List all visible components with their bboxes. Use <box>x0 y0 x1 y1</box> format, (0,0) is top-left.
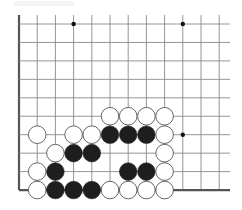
star-point-icon <box>71 22 75 26</box>
white-stone[interactable] <box>138 107 156 125</box>
black-stone[interactable] <box>65 181 83 199</box>
white-stone[interactable] <box>101 181 119 199</box>
white-stone[interactable] <box>156 181 174 199</box>
black-stone[interactable] <box>138 163 156 181</box>
black-stone[interactable] <box>138 126 156 144</box>
white-stone[interactable] <box>119 107 137 125</box>
white-stone[interactable] <box>28 163 46 181</box>
white-stone[interactable] <box>156 144 174 162</box>
star-point-icon <box>181 22 185 26</box>
black-stone[interactable] <box>119 126 137 144</box>
go-board[interactable] <box>0 0 242 210</box>
white-stone[interactable] <box>101 107 119 125</box>
white-stone[interactable] <box>156 107 174 125</box>
white-stone[interactable] <box>28 126 46 144</box>
black-stone[interactable] <box>83 181 101 199</box>
white-stone[interactable] <box>65 126 83 144</box>
black-stone[interactable] <box>47 163 65 181</box>
white-stone[interactable] <box>156 163 174 181</box>
black-stone[interactable] <box>101 126 119 144</box>
black-stone[interactable] <box>65 144 83 162</box>
white-stone[interactable] <box>28 181 46 199</box>
white-stone[interactable] <box>83 126 101 144</box>
white-stone[interactable] <box>47 144 65 162</box>
white-stone[interactable] <box>156 126 174 144</box>
black-stone[interactable] <box>83 144 101 162</box>
white-stone[interactable] <box>138 181 156 199</box>
star-point-icon <box>181 133 185 137</box>
black-stone[interactable] <box>119 163 137 181</box>
white-stone[interactable] <box>119 181 137 199</box>
black-stone[interactable] <box>47 181 65 199</box>
